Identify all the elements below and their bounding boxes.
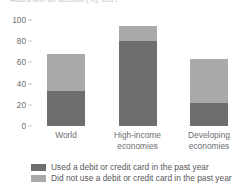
bar-group[interactable]	[190, 59, 228, 126]
legend-swatch-icon	[31, 164, 46, 171]
x-axis-label-line: World	[26, 130, 106, 141]
bar-segment[interactable]	[47, 91, 85, 126]
bar-group[interactable]	[47, 54, 85, 126]
x-axis-label: World	[26, 130, 106, 141]
legend-item[interactable]: Did not use a debit or credit card in th…	[31, 174, 232, 183]
y-axis-tick-mark	[28, 126, 32, 127]
y-axis-tick-label: 100	[0, 16, 26, 24]
y-axis-tick-label: 40	[0, 79, 26, 87]
bar-segment[interactable]	[119, 26, 157, 41]
legend-item[interactable]: Used a debit or credit card in the past …	[31, 163, 232, 172]
chart-title: Adults with an account (%), 2017	[10, 0, 118, 4]
y-axis-tick-label: 80	[0, 37, 26, 45]
bar-group[interactable]	[119, 26, 157, 126]
bar-segment[interactable]	[119, 41, 157, 126]
x-axis-label-line: economies	[169, 141, 249, 152]
x-axis-label-line: Developing	[169, 130, 249, 141]
legend-label: Did not use a debit or credit card in th…	[51, 174, 232, 183]
y-axis-tick-label: 60	[0, 58, 26, 66]
y-axis-tick-mark	[28, 62, 32, 63]
chart-container: Adults with an account (%), 2017 1008060…	[0, 0, 251, 196]
legend-label: Used a debit or credit card in the past …	[51, 163, 209, 172]
y-axis-tick-mark	[28, 20, 32, 21]
y-axis-tick-mark	[28, 104, 32, 105]
bar-segment[interactable]	[190, 103, 228, 126]
x-axis-label-line: economies	[98, 141, 178, 152]
x-axis-label: Developingeconomies	[169, 130, 249, 151]
bar-segment[interactable]	[190, 59, 228, 102]
plot-area: 100806040200 WorldHigh-incomeeconomiesDe…	[34, 20, 247, 126]
y-axis-tick-mark	[28, 41, 32, 42]
x-axis-label: High-incomeeconomies	[98, 130, 178, 151]
bar-segment[interactable]	[47, 54, 85, 91]
y-axis-tick-label: 20	[0, 100, 26, 108]
y-axis-tick-label: 0	[0, 122, 26, 130]
legend-swatch-icon	[31, 175, 46, 182]
chart-legend: Used a debit or credit card in the past …	[31, 163, 232, 183]
y-axis-tick-mark	[28, 83, 32, 84]
x-axis-label-line: High-income	[98, 130, 178, 141]
